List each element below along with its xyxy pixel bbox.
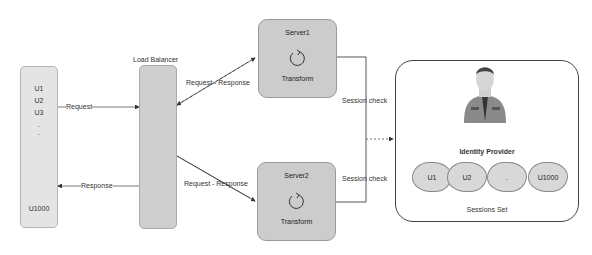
user-item: U1 — [21, 85, 57, 92]
user-item: U2 — [21, 97, 57, 104]
cycle-icon — [286, 192, 306, 212]
lb-server1-label: Request - Response — [186, 79, 250, 86]
request-label: Request — [66, 103, 92, 110]
session-cloud: . — [487, 162, 527, 192]
server1-title: Server1 — [259, 29, 336, 36]
server1-box: Server1 Transform — [258, 19, 337, 98]
response-label: Response — [81, 182, 113, 189]
cycle-icon — [287, 49, 307, 69]
session-check-1-label: Session check — [342, 97, 387, 104]
user-item: . — [21, 129, 57, 136]
server2-process: Transform — [258, 218, 335, 225]
sessions-set-label: Sessions Set — [396, 206, 578, 213]
load-balancer-label: Load Balancer — [133, 56, 178, 63]
session-cloud: U2 — [447, 162, 487, 192]
security-guard-icon — [462, 63, 508, 123]
session-check-2-label: Session check — [342, 175, 387, 182]
user-item: U1000 — [21, 205, 57, 212]
session-cloud: U1000 — [528, 162, 568, 192]
session-cloud: U1 — [412, 162, 452, 192]
server2-title: Server2 — [258, 172, 335, 179]
user-item: U3 — [21, 109, 57, 116]
lb-server2-label: Request - Response — [184, 180, 248, 187]
server2-box: Server2 Transform — [257, 162, 336, 241]
identity-provider-box: Identity Provider U1 U2 . U1000 Sessions… — [395, 60, 579, 222]
user-item: . — [21, 121, 57, 128]
server1-process: Transform — [259, 75, 336, 82]
load-balancer-box — [139, 65, 177, 229]
users-box: U1 U2 U3 . . U1000 — [20, 66, 58, 228]
identity-provider-label: Identity Provider — [396, 148, 578, 155]
